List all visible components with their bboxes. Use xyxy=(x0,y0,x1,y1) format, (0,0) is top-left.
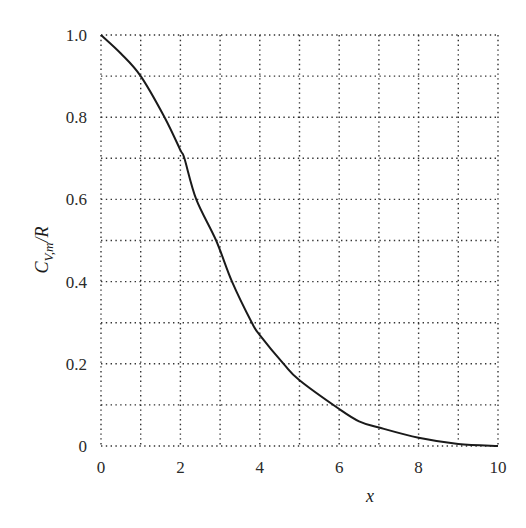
y-tick-label: 1.0 xyxy=(66,26,87,45)
data-series xyxy=(101,35,498,446)
y-tick-label: 0.8 xyxy=(66,108,87,127)
y-tick-label: 0 xyxy=(79,437,88,456)
x-tick-label: 10 xyxy=(490,458,507,477)
x-tick-label: 0 xyxy=(97,458,106,477)
y-axis-label: CV,m/R xyxy=(32,227,56,274)
x-axis-label: x xyxy=(365,486,374,506)
x-tick-label: 6 xyxy=(335,458,344,477)
y-label-subscript: V,m xyxy=(41,243,56,262)
grid-lines xyxy=(101,35,498,446)
y-axis-ticks: 00.20.40.60.81.0 xyxy=(66,26,88,456)
x-tick-label: 8 xyxy=(414,458,423,477)
y-tick-label: 0.4 xyxy=(66,273,88,292)
y-tick-label: 0.6 xyxy=(66,190,87,209)
x-tick-label: 2 xyxy=(176,458,185,477)
x-tick-label: 4 xyxy=(256,458,265,477)
x-axis-ticks: 0246810 xyxy=(97,458,507,477)
cv-curve xyxy=(101,35,498,446)
y-label-rest: /R xyxy=(32,227,52,244)
chart: 0246810 00.20.40.60.81.0 x CV,m/R xyxy=(0,0,526,528)
y-tick-label: 0.2 xyxy=(66,355,87,374)
